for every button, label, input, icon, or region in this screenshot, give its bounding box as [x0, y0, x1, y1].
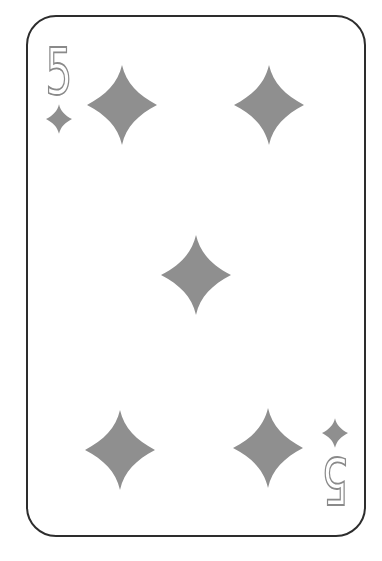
diamond-pip-icon: [233, 408, 303, 488]
corner-index-top-left: 5: [44, 46, 74, 134]
playing-card[interactable]: 5 5: [26, 15, 366, 537]
diamond-pip-icon: [87, 65, 157, 145]
rank-text: 5: [45, 46, 72, 96]
corner-index-bottom-right: 5: [320, 418, 350, 506]
diamond-pip-icon: [161, 235, 231, 315]
rank-numeral-bottom-right: 5: [320, 456, 350, 506]
rank-numeral-top-left: 5: [44, 46, 74, 96]
rank-text: 5: [321, 456, 348, 506]
page-background: 5 5: [0, 0, 382, 561]
diamond-pip-icon: [85, 410, 155, 490]
diamond-pip-icon: [322, 418, 348, 448]
diamond-pip-icon: [46, 104, 72, 134]
diamond-pip-icon: [234, 65, 304, 145]
